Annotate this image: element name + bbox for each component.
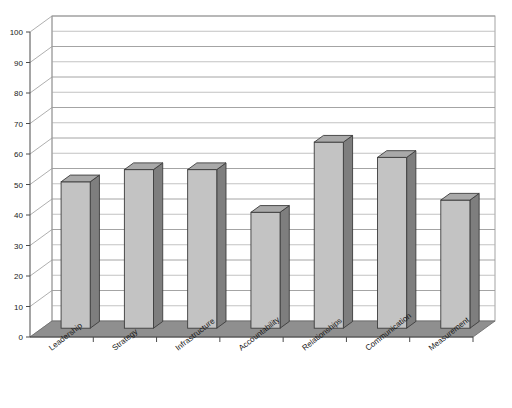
bar-measurement: [441, 193, 479, 328]
chart-container: 0102030405060708090100 LeadershipStrateg…: [0, 0, 512, 408]
depth-connector-line: [30, 230, 52, 246]
value-axis-tick-label: 50: [14, 181, 23, 190]
value-axis-ticks: 0102030405060708090100: [10, 28, 30, 342]
value-axis-tick-label: 60: [14, 150, 23, 159]
bar-communication: [378, 151, 416, 329]
value-axis-tick-label: 30: [14, 242, 23, 251]
value-axis-tick-label: 10: [14, 303, 23, 312]
depth-connector-line: [30, 108, 52, 124]
bar-front-face: [378, 157, 407, 328]
bar-relationships: [314, 135, 352, 328]
category-axis-ticks: [93, 337, 473, 342]
bar-leadership: [61, 175, 99, 328]
value-axis-tick-label: 80: [14, 89, 23, 98]
depth-connector-line: [30, 77, 52, 93]
bar-side-face: [90, 175, 99, 328]
bar-front-face: [314, 142, 343, 328]
bar-side-face: [343, 135, 352, 328]
bar-infrastructure: [188, 163, 226, 328]
bar-front-face: [251, 212, 280, 328]
value-axis-tick-label: 20: [14, 272, 23, 281]
depth-connector-lines: [30, 16, 52, 337]
depth-connector-line: [30, 47, 52, 63]
bar-chart-svg: 0102030405060708090100 LeadershipStrateg…: [0, 0, 512, 408]
depth-connector-line: [30, 16, 52, 32]
bar-front-face: [61, 182, 90, 328]
bar-side-face: [280, 206, 289, 329]
bar-side-face: [470, 193, 479, 328]
depth-connector-line: [30, 138, 52, 154]
bar-side-face: [217, 163, 226, 328]
value-axis-tick-label: 0: [19, 333, 24, 342]
depth-connector-line: [30, 260, 52, 276]
value-axis-tick-label: 90: [14, 59, 23, 68]
depth-connector-line: [30, 291, 52, 307]
bar-front-face: [441, 200, 470, 328]
bar-strategy: [124, 163, 162, 328]
value-axis-tick-label: 40: [14, 211, 23, 220]
value-axis-tick-label: 100: [10, 28, 24, 37]
depth-connector-line: [30, 169, 52, 185]
bar-accountability: [251, 206, 289, 329]
bar-side-face: [153, 163, 162, 328]
bar-front-face: [124, 170, 153, 329]
value-axis-tick-label: 70: [14, 120, 23, 129]
depth-connector-line: [30, 199, 52, 215]
bar-side-face: [407, 151, 416, 329]
bar-front-face: [188, 170, 217, 329]
